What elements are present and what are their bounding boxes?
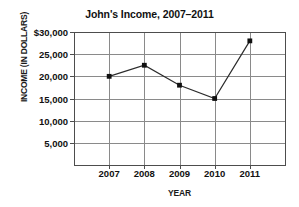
data-point-marker [212, 96, 217, 101]
x-tick-label: 2010 [204, 168, 225, 179]
x-tick-label: 2008 [134, 168, 155, 179]
x-axis-title: YEAR [74, 188, 285, 198]
vertical-gridlines [110, 32, 251, 165]
data-point-marker [247, 38, 252, 43]
x-tick-label: 2007 [99, 168, 120, 179]
y-axis-tick-marks [70, 33, 74, 144]
income-line-chart: John's Income, 2007–2011 INCOME (IN DOLL… [0, 0, 299, 207]
income-data-line [109, 41, 250, 99]
horizontal-gridlines [74, 33, 285, 144]
data-point-marker [177, 83, 182, 88]
data-point-marker [142, 63, 147, 68]
x-axis-tick-labels: 20072008200920102011 [74, 168, 285, 184]
x-tick-label: 2011 [240, 168, 261, 179]
data-point-marker [107, 74, 112, 79]
x-tick-label: 2009 [169, 168, 190, 179]
